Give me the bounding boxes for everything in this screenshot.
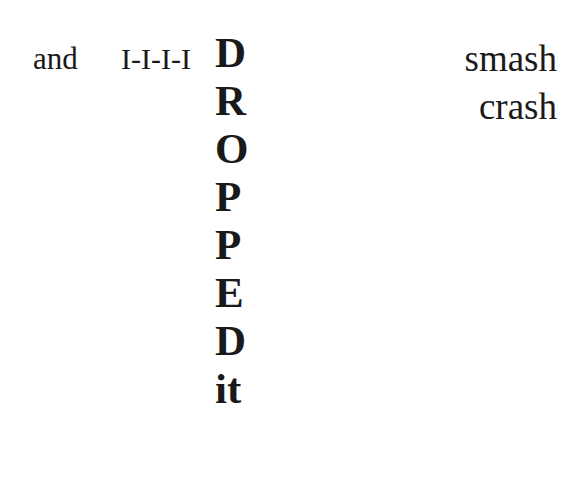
word-stutter: I-I-I-I <box>121 35 191 83</box>
word-crash: crash <box>465 83 558 131</box>
stack-letter: D <box>215 29 248 77</box>
word-smash: smash <box>465 35 558 83</box>
stack-letter: D <box>215 317 248 365</box>
right-words: smash crash <box>465 35 558 131</box>
stack-letter: P <box>215 221 248 269</box>
stack-word-it: it <box>215 365 248 413</box>
stack-letter: P <box>215 173 248 221</box>
dropped-vertical-stack: D R O P P E D it <box>215 29 248 413</box>
stack-letter: R <box>215 77 248 125</box>
stack-letter: O <box>215 125 248 173</box>
stack-letter: E <box>215 269 248 317</box>
word-and: and <box>33 35 78 83</box>
